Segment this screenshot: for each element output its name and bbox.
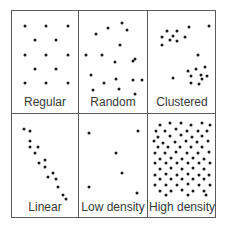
clustered-point xyxy=(205,75,208,78)
high-density-point xyxy=(198,173,201,176)
regular-point xyxy=(45,24,48,27)
high-density-point xyxy=(154,130,157,133)
linear-point xyxy=(44,159,47,162)
high-density-point xyxy=(176,184,179,187)
high-density-point xyxy=(185,129,188,132)
high-density-point xyxy=(195,140,198,143)
high-density-point xyxy=(190,124,193,127)
panel-label-low-density: Low density xyxy=(79,200,147,214)
high-density-point xyxy=(190,136,193,139)
high-density-point xyxy=(192,178,195,181)
high-density-point xyxy=(158,178,161,181)
high-density-point xyxy=(200,122,203,125)
high-density-point xyxy=(201,135,204,138)
regular-point xyxy=(24,81,27,84)
high-density-point xyxy=(198,184,201,187)
high-density-point xyxy=(181,157,184,160)
linear-point xyxy=(33,152,36,155)
high-density-point xyxy=(197,152,200,155)
linear-point xyxy=(54,178,57,181)
clustered-point xyxy=(196,54,199,57)
high-density-point xyxy=(208,173,211,176)
high-density-point xyxy=(178,146,181,149)
high-density-point xyxy=(163,129,166,132)
high-density-point xyxy=(208,151,211,154)
clustered-point xyxy=(187,69,190,72)
high-density-point xyxy=(173,140,176,143)
linear-point xyxy=(62,193,65,196)
high-density-point xyxy=(169,189,172,192)
high-density-point xyxy=(205,129,208,132)
regular-point xyxy=(24,24,27,27)
high-density-point xyxy=(203,168,206,171)
random-point xyxy=(119,44,122,47)
low-density-point xyxy=(136,129,139,132)
clustered-point xyxy=(190,75,193,78)
high-density-point xyxy=(198,162,201,165)
random-point xyxy=(92,88,95,91)
low-density-point xyxy=(115,152,118,155)
high-density-point xyxy=(203,178,206,181)
regular-point xyxy=(45,53,48,56)
high-density-point xyxy=(168,122,171,125)
high-density-point xyxy=(169,156,172,159)
panel-low-density: Low density xyxy=(79,114,147,218)
high-density-point xyxy=(164,172,167,175)
high-density-point xyxy=(192,167,195,170)
regular-point xyxy=(54,67,57,70)
high-density-point xyxy=(181,168,184,171)
regular-point xyxy=(66,53,69,56)
linear-point xyxy=(29,146,32,149)
regular-point xyxy=(66,24,69,27)
high-density-point xyxy=(200,146,203,149)
clustered-point xyxy=(200,77,203,80)
high-density-point xyxy=(153,162,156,165)
random-point xyxy=(107,27,110,30)
high-density-point xyxy=(203,157,206,160)
clustered-point xyxy=(195,67,198,70)
high-density-point xyxy=(187,194,190,197)
high-density-point xyxy=(153,140,156,143)
high-density-point xyxy=(189,145,192,148)
high-density-point xyxy=(158,189,161,192)
high-density-point xyxy=(174,151,177,154)
panel-label-high-density: High density xyxy=(148,200,216,214)
high-density-point xyxy=(153,184,156,187)
random-point xyxy=(101,53,104,56)
clustered-point xyxy=(190,81,193,84)
linear-point xyxy=(57,186,60,189)
regular-point xyxy=(24,53,27,56)
high-density-point xyxy=(157,136,160,139)
random-point xyxy=(118,87,121,90)
random-point xyxy=(115,77,118,80)
panel-label-clustered: Clustered xyxy=(148,95,216,109)
high-density-point xyxy=(185,152,188,155)
high-density-point xyxy=(187,183,190,186)
random-point xyxy=(121,22,124,25)
high-density-point xyxy=(158,168,161,171)
high-density-point xyxy=(187,162,190,165)
clustered-point xyxy=(203,66,206,69)
panel-clustered: Clustered xyxy=(148,11,216,113)
panel-regular: Regular xyxy=(12,11,78,113)
linear-point xyxy=(44,165,47,168)
high-density-point xyxy=(153,152,156,155)
high-density-point xyxy=(176,173,179,176)
high-density-point xyxy=(157,146,160,149)
panel-label-regular: Regular xyxy=(12,95,78,109)
high-density-point xyxy=(192,156,195,159)
high-density-point xyxy=(207,140,210,143)
high-density-point xyxy=(169,178,172,181)
linear-point xyxy=(51,172,54,175)
panel-high-density: High density xyxy=(148,114,216,218)
clustered-point xyxy=(168,38,171,41)
high-density-point xyxy=(179,134,182,137)
linear-point xyxy=(23,128,26,131)
clustered-point xyxy=(160,36,163,39)
high-density-point xyxy=(169,167,172,170)
clustered-point xyxy=(188,26,191,29)
panel-random: Random xyxy=(79,11,147,113)
high-density-point xyxy=(184,140,187,143)
high-density-point xyxy=(164,184,167,187)
high-density-point xyxy=(153,173,156,176)
